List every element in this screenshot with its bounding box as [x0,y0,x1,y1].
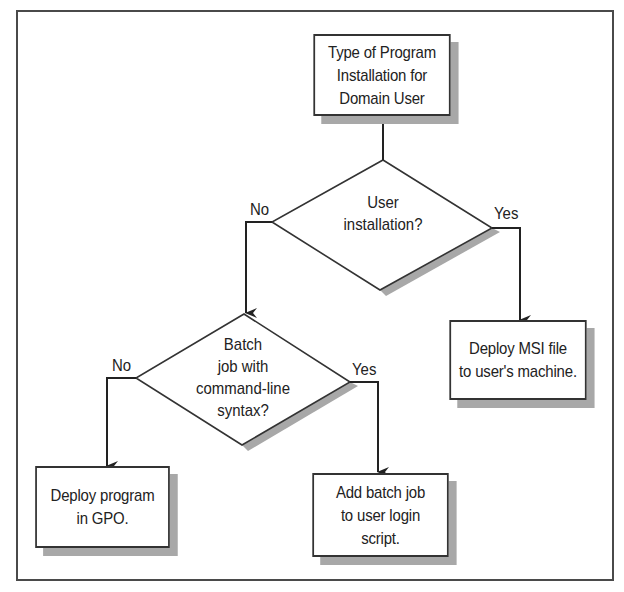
branch-label-batch-yes: Yes [352,360,376,380]
add-batch-label: Add batch job to user login script. [336,481,425,550]
decision-user-label: User installation? [326,192,440,236]
deploy-msi-node: Deploy MSI file to user's machine. [449,320,586,400]
add-batch-node: Add batch job to user login script. [312,473,448,557]
branch-label-user-yes: Yes [494,204,518,224]
branch-label-batch-no: No [112,356,131,376]
deploy-gpo-label: Deploy program in GPO. [51,484,155,530]
start-node: Type of Program Installation for Domain … [313,34,450,116]
deploy-msi-label: Deploy MSI file to user's machine. [459,337,577,383]
decision-batch-label: Batch job with command-line syntax? [186,334,300,422]
deploy-gpo-node: Deploy program in GPO. [35,466,170,548]
flowchart-canvas: Type of Program Installation for Domain … [0,0,624,592]
branch-label-user-no: No [250,200,269,220]
start-node-label: Type of Program Installation for Domain … [328,41,436,110]
